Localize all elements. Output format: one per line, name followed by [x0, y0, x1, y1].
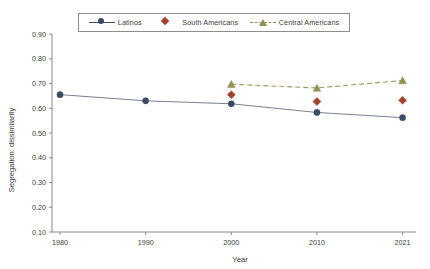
- y-axis-title: Segregation: dissimilarity: [7, 108, 16, 193]
- x-axis-title: Year: [232, 255, 248, 264]
- data-point-marker: [399, 96, 407, 104]
- y-tick-label: 0.30: [32, 178, 46, 187]
- x-tick-label: 1980: [52, 238, 68, 247]
- y-tick-label: 0.50: [32, 129, 46, 138]
- y-tick-label: 0.20: [32, 203, 46, 212]
- data-point-marker: [57, 92, 63, 98]
- y-tick-label: 0.40: [32, 153, 46, 162]
- data-point-marker: [143, 98, 149, 104]
- y-tick-label: 0.90: [32, 30, 46, 39]
- y-tick-label: 0.80: [32, 54, 46, 63]
- y-tick-label: 0.60: [32, 104, 46, 113]
- data-point-marker: [399, 115, 405, 121]
- y-axis: 0.100.200.300.400.500.600.700.800.90: [32, 30, 52, 237]
- segregation-dissimilarity-chart: Latinos South Americans Central American…: [0, 0, 430, 269]
- data-point-marker: [314, 109, 320, 115]
- x-tick-label: 2000: [223, 238, 239, 247]
- x-axis: 19801990200020102021: [52, 232, 416, 247]
- plot-area: 0.100.200.300.400.500.600.700.800.90 198…: [0, 0, 430, 269]
- y-tick-label: 0.10: [32, 228, 46, 237]
- data-point-marker: [313, 98, 321, 106]
- data-point-marker: [227, 91, 235, 99]
- y-tick-label: 0.70: [32, 79, 46, 88]
- x-tick-label: 1990: [138, 238, 154, 247]
- data-series-group: [57, 77, 407, 121]
- data-point-marker: [228, 101, 234, 107]
- x-tick-label: 2010: [309, 238, 325, 247]
- x-tick-label: 2021: [395, 238, 411, 247]
